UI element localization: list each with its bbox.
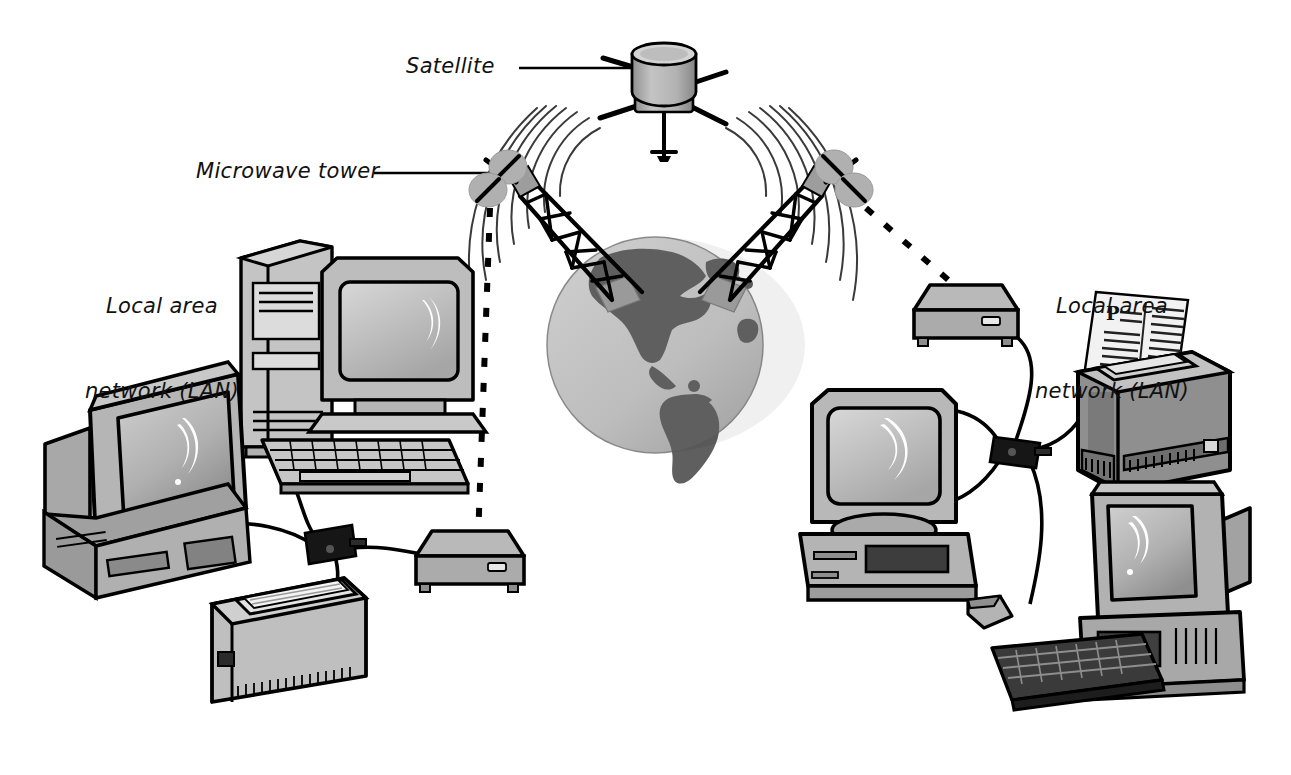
- keyboard-left: [262, 440, 468, 493]
- globe-earth: [547, 237, 805, 484]
- label-lan-right: Local area network (LAN): [1012, 235, 1212, 462]
- microwave-tower-left: [469, 150, 642, 312]
- crt-monitor-left-back: [309, 258, 486, 432]
- dish-antenna: [815, 150, 873, 207]
- label-lan-left-line2: network (LAN): [62, 377, 262, 405]
- modem-left: [416, 531, 524, 592]
- network-hub-left: [305, 525, 366, 564]
- label-lan-left-line1: Local area: [62, 292, 262, 320]
- radio-link-right-dashed: [866, 208, 962, 292]
- satellite-icon: [600, 43, 726, 162]
- label-lan-right-line1: Local area: [1012, 292, 1212, 320]
- label-lan-right-line2: network (LAN): [1012, 377, 1212, 405]
- radio-link-left-dashed: [478, 208, 490, 540]
- modem-right: [914, 285, 1018, 346]
- label-microwave-tower: Microwave tower: [196, 157, 379, 185]
- desktop-pc-right: [800, 390, 976, 600]
- scanner-left: [212, 578, 366, 702]
- dish-antenna: [469, 150, 527, 207]
- microwave-tower-right: [700, 150, 873, 312]
- network-diagram-canvas: P: [0, 0, 1291, 775]
- label-satellite: Satellite: [406, 52, 495, 80]
- label-lan-left: Local area network (LAN): [62, 235, 262, 462]
- mouse-right: [968, 596, 1012, 628]
